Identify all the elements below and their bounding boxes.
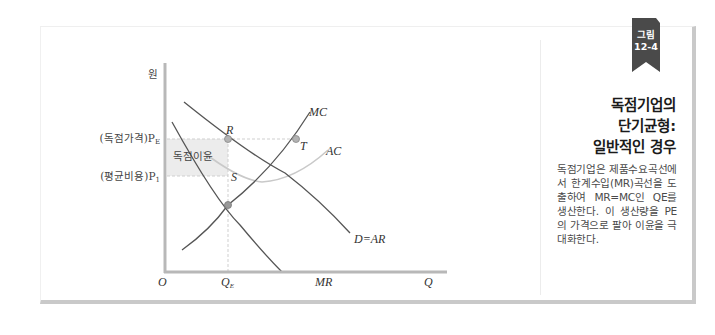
point-r-label: R [225, 123, 234, 137]
badge-text: 그림 12-4 [632, 29, 660, 53]
title-line-2: 단기균형: [548, 116, 676, 137]
quantity-label: QE [221, 275, 235, 290]
mc-curve [182, 112, 310, 250]
point-t-label: T [300, 139, 308, 153]
point-equilibrium [225, 202, 232, 209]
badge-line2: 12-4 [632, 41, 660, 53]
figure-title: 독점기업의 단기균형: 일반적인 경우 [548, 95, 676, 158]
average-cost-label: (평균비용)P1 [100, 170, 160, 184]
monopoly-price-label: (독점가격)PE [100, 132, 160, 146]
profit-area-label: 독점이윤 [173, 150, 213, 162]
point-s-label: S [231, 170, 237, 184]
figure-badge: 그림 12-4 [632, 18, 660, 72]
y-axis-label: 원 [148, 68, 158, 80]
badge-line1: 그림 [632, 29, 660, 41]
ac-label: AC [325, 144, 342, 158]
x-axis-label: Q [424, 275, 433, 289]
point-t [293, 136, 300, 143]
title-line-3: 일반적인 경우 [548, 137, 676, 158]
demand-label: D=AR [353, 232, 386, 246]
figure-description: 독점기업은 제품수요곡선에서 한계수입(MR)곡선을 도출하여 MR=MC인 Q… [557, 162, 677, 246]
mc-label: MC [308, 105, 328, 119]
origin-label: O [158, 275, 167, 289]
title-line-1: 독점기업의 [548, 95, 676, 116]
mr-label: MR [314, 275, 333, 289]
